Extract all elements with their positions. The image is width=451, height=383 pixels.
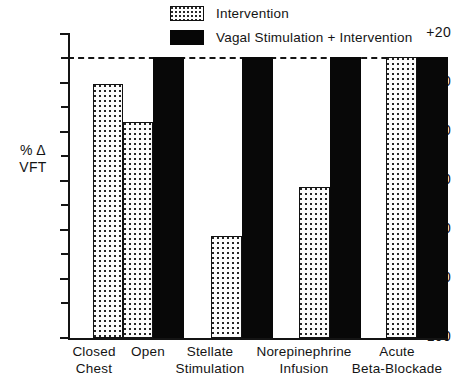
- bar-norepinephrine-vagal: [330, 57, 361, 338]
- y-minor-tick-minus90: [61, 302, 69, 304]
- x-label-stellate-line1: Stellate: [187, 344, 234, 359]
- bar-acute-beta-blockade-vagal: [417, 57, 448, 338]
- y-tick-20: [60, 33, 69, 35]
- bar-stellate-intervention: [211, 236, 242, 338]
- y-tick-minus40: [60, 180, 69, 182]
- bar-open-chest-vagal: [153, 57, 184, 338]
- x-label-closed-line1: Closed: [72, 344, 115, 359]
- y-axis-title-line2: VFT: [4, 159, 62, 176]
- x-label-norepinephrine-line1: Norepinephrine: [256, 344, 351, 359]
- y-axis-title-line1: % Δ: [20, 142, 46, 158]
- x-label-acute-line1: Acute: [379, 344, 415, 359]
- bar-stellate-vagal: [242, 57, 273, 338]
- y-axis-title: % Δ VFT: [4, 142, 62, 176]
- bar-acute-beta-blockade-intervention: [386, 57, 417, 338]
- x-axis-line: [68, 338, 448, 340]
- y-tick-minus60: [60, 229, 69, 231]
- y-axis-line: [68, 33, 70, 338]
- plot-area: [68, 33, 448, 338]
- legend-item-intervention: Intervention: [170, 2, 450, 24]
- bar-norepinephrine-intervention: [299, 187, 330, 338]
- y-minor-tick-minus70: [61, 253, 69, 255]
- bar-chart-figure: Intervention Vagal Stimulation + Interve…: [0, 0, 451, 383]
- x-label-closed-chest: Closed Chest: [60, 343, 128, 377]
- y-minor-tick-minus50: [61, 204, 69, 206]
- y-tick-0: [60, 82, 69, 84]
- legend-label-intervention: Intervention: [216, 6, 289, 21]
- y-tick-minus100: [60, 337, 69, 339]
- y-tick-minus20: [60, 131, 69, 133]
- y-minor-tick-minus10: [61, 106, 69, 108]
- x-label-chest-line2: Chest: [60, 360, 128, 377]
- x-label-beta-blockade-line2: Beta-Blockade: [345, 360, 449, 377]
- bar-closed-chest-intervention: [93, 84, 123, 338]
- x-label-acute-beta-blockade: Acute Beta-Blockade: [345, 343, 449, 377]
- dotted-swatch-icon: [170, 6, 204, 21]
- y-minor-tick-minus30: [61, 155, 69, 157]
- bar-open-chest-intervention: [123, 122, 153, 338]
- y-tick-minus80: [60, 278, 69, 280]
